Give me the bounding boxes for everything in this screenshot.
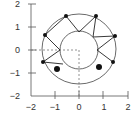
x-tick-label: 1 [101, 102, 106, 112]
x-tick-label: 0 [76, 102, 81, 112]
axes [28, 4, 128, 99]
vertex-point [113, 34, 117, 38]
vertex-point [111, 60, 115, 64]
y-tick-label: 0 [15, 45, 20, 55]
vertex-point [43, 33, 47, 37]
y-tick-label: 2 [15, 0, 20, 9]
y-tick-label: −1 [10, 68, 20, 78]
y-tick-label: −2 [10, 91, 20, 101]
vertex-point [94, 14, 98, 18]
outer-ellipse [42, 14, 116, 84]
large-dot-left [54, 66, 60, 72]
dashed-guides [31, 50, 79, 96]
vertex-point [64, 14, 68, 18]
x-tick-label: 2 [125, 102, 130, 112]
x-tick-label: −1 [50, 102, 60, 112]
chart-canvas: 2 1 0 −1 −2 −2 −1 0 1 2 [0, 0, 140, 127]
vertex-point [41, 60, 45, 64]
y-tick-label: 1 [15, 22, 20, 32]
x-tick-label: −2 [26, 102, 36, 112]
large-dot-right [96, 64, 102, 70]
